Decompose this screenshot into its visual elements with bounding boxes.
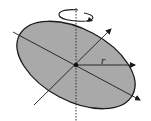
center-point bbox=[74, 63, 78, 67]
rotating-disk-diagram: r bbox=[0, 0, 151, 121]
radius-label: r bbox=[101, 54, 106, 66]
